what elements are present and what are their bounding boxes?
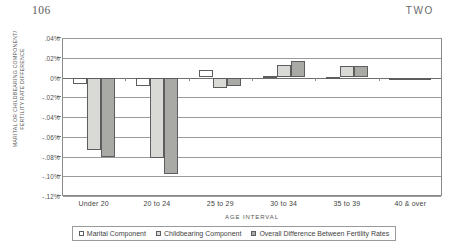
bar-rect (291, 61, 305, 78)
bar-group (125, 38, 188, 196)
y-axis-tick-labels: .04%.02%0%-.02%-.04%-.06%-.08%-.10%-.12% (22, 38, 60, 196)
page-number: 106 (32, 4, 51, 16)
y-axis-tick-label: 0% (26, 74, 60, 81)
bar-rect (277, 65, 291, 78)
legend-item[interactable]: Overall Difference Between Fertility Rat… (251, 230, 389, 237)
legend-item[interactable]: Marital Component (79, 230, 146, 237)
x-axis-tick-label: Under 20 (62, 200, 125, 207)
bar-rect (199, 70, 213, 78)
bar-group-bars (189, 38, 252, 196)
bar-rect (136, 78, 150, 87)
x-axis-tick-labels: Under 2020 to 2425 to 2930 to 3435 to 39… (62, 200, 442, 207)
bar-rect (73, 78, 87, 85)
legend-swatch-icon (79, 231, 84, 236)
bar-rect (101, 78, 115, 157)
legend-swatch-icon (251, 231, 256, 236)
x-axis-tick-label: 30 to 34 (252, 200, 315, 207)
y-axis-tick-label: -.02% (26, 94, 60, 101)
x-axis-tick-mark (252, 78, 253, 81)
bar-group (315, 38, 378, 196)
bar-group-bars (125, 38, 188, 196)
legend-item[interactable]: Childbearing Component (156, 230, 241, 237)
legend-item-label: Marital Component (87, 230, 146, 237)
bar-rect (213, 78, 227, 89)
bar-rect (263, 76, 277, 78)
x-axis-tick-label: 25 to 29 (189, 200, 252, 207)
bar-rect (87, 78, 101, 150)
bar-group (62, 38, 125, 196)
legend-item-label: Overall Difference Between Fertility Rat… (259, 230, 389, 237)
x-axis-tick-mark (62, 78, 63, 81)
bar-rect (417, 78, 431, 80)
y-axis-tick-label: -.10% (26, 173, 60, 180)
bar-rect (403, 78, 417, 80)
bar-group (252, 38, 315, 196)
running-head: 106 TWO (0, 4, 460, 20)
y-axis-tick-label: -.06% (26, 133, 60, 140)
bar-rect (354, 66, 368, 78)
bar-rect (326, 77, 340, 79)
bar-group-bars (315, 38, 378, 196)
x-axis-tick-mark (189, 78, 190, 81)
bar-group (379, 38, 442, 196)
bar-group-bars (252, 38, 315, 196)
x-axis-tick-label: 20 to 24 (125, 200, 188, 207)
bar-rect (227, 78, 241, 87)
bar-rect (150, 78, 164, 159)
chapter-label: TWO (406, 5, 434, 16)
chart-legend: Marital ComponentChildbearing ComponentO… (72, 226, 396, 241)
x-axis-tick-mark (315, 78, 316, 81)
y-axis-tick-label: -.12% (26, 193, 60, 200)
x-axis-tick-mark (125, 78, 126, 81)
bar-chart-figure: MARITAL OR CHILDBEARING COMPONENT/ FERTI… (0, 24, 460, 251)
bar-groups (62, 38, 442, 196)
legend-swatch-icon (156, 231, 161, 236)
bar-group-bars (379, 38, 442, 196)
x-axis-tick-label: 40 & over (379, 200, 442, 207)
bar-rect (389, 78, 403, 80)
y-axis-tick-label: -.08% (26, 153, 60, 160)
bar-group (189, 38, 252, 196)
x-axis-tick-mark (379, 78, 380, 81)
bar-rect (164, 78, 178, 175)
x-axis-title: AGE INTERVAL (62, 214, 442, 220)
legend-item-label: Childbearing Component (164, 230, 241, 237)
y-axis-tick-label: .02% (26, 54, 60, 61)
y-axis-tick-label: -.04% (26, 114, 60, 121)
x-axis-tick-label: 35 to 39 (315, 200, 378, 207)
gridline (63, 196, 441, 197)
y-axis-tick-label: .04% (26, 35, 60, 42)
bar-group-bars (62, 38, 125, 196)
bar-rect (340, 66, 354, 78)
